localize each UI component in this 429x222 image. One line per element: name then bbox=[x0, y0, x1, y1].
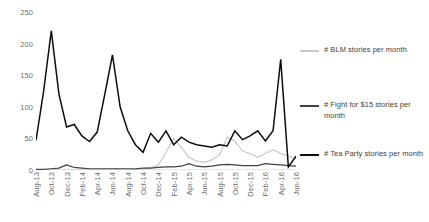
y-tick-label-5: 250 bbox=[20, 8, 33, 17]
x-tick-label-12: Aug-15 bbox=[216, 172, 225, 197]
y-tick-label-1: 50 bbox=[24, 134, 33, 143]
legend-label-1: # Fight for $15 stories per month bbox=[324, 100, 429, 121]
chart-legend: # BLM stories per month# Fight for $15 s… bbox=[300, 12, 429, 192]
x-tick-label-16: Apr-16 bbox=[277, 172, 286, 195]
plot-area bbox=[36, 12, 296, 170]
x-tick-label-9: Feb-15 bbox=[170, 172, 179, 196]
legend-entry-2[interactable]: # Tea Party stories per month bbox=[300, 149, 429, 160]
x-tick-label-15: Feb-16 bbox=[261, 172, 270, 196]
legend-entry-0[interactable]: # BLM stories per month bbox=[300, 45, 429, 56]
legend-label-2: # Tea Party stories per month bbox=[324, 149, 423, 160]
x-axis: Aug-13Oct-13Dec-13Feb-14Apr-14Jun-14Aug-… bbox=[36, 172, 296, 220]
series-line-2 bbox=[36, 31, 296, 167]
x-tick-label-6: Aug-14 bbox=[124, 172, 133, 197]
x-tick-label-13: Oct-15 bbox=[231, 172, 240, 195]
x-tick-label-10: Apr-15 bbox=[185, 172, 194, 195]
x-tick-label-5: Jun-14 bbox=[108, 172, 117, 196]
series-line-1 bbox=[36, 164, 296, 170]
x-tick-label-8: Dec-14 bbox=[154, 172, 163, 197]
legend-swatch-icon-0 bbox=[300, 50, 319, 52]
y-tick-label-3: 150 bbox=[20, 71, 33, 80]
x-tick-label-14: Dec-15 bbox=[246, 172, 255, 197]
x-tick-label-0: Aug-13 bbox=[32, 172, 41, 197]
x-tick-label-1: Oct-13 bbox=[47, 172, 56, 195]
x-tick-label-3: Feb-14 bbox=[78, 172, 87, 196]
x-tick-label-7: Oct-14 bbox=[139, 172, 148, 195]
x-tick-label-4: Apr-14 bbox=[93, 172, 102, 195]
x-tick-label-2: Dec-13 bbox=[63, 172, 72, 197]
line-chart: 050100150200250 Aug-13Oct-13Dec-13Feb-14… bbox=[0, 0, 429, 222]
legend-swatch-icon-1 bbox=[300, 105, 319, 107]
y-tick-label-2: 100 bbox=[20, 102, 33, 111]
y-axis: 050100150200250 bbox=[0, 12, 33, 170]
legend-label-0: # BLM stories per month bbox=[324, 45, 407, 56]
y-tick-label-4: 200 bbox=[20, 39, 33, 48]
legend-swatch-icon-2 bbox=[300, 154, 319, 156]
legend-entry-1[interactable]: # Fight for $15 stories per month bbox=[300, 100, 429, 121]
x-tick-label-11: Jun-15 bbox=[200, 172, 209, 196]
plot-svg bbox=[36, 12, 296, 170]
